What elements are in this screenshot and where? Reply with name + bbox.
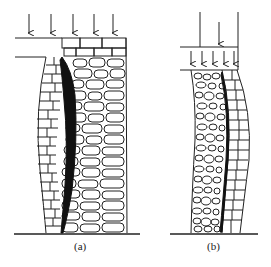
diagram-canvas	[0, 0, 271, 267]
panel-a	[14, 14, 140, 234]
panel-b-label: (b)	[207, 240, 220, 252]
panel-a-label: (a)	[74, 240, 86, 252]
distributed-arrows-b	[191, 51, 234, 64]
load-arrows-a	[29, 14, 113, 33]
slab-a	[15, 38, 62, 57]
beam-b	[180, 47, 238, 70]
rubble-core-b	[192, 73, 226, 232]
wall-right-face-a	[126, 38, 127, 233]
wall-right-face-b	[237, 70, 250, 233]
top-bricks-a	[62, 38, 126, 56]
facing-bricks-a	[37, 57, 62, 226]
panel-b	[170, 12, 258, 234]
